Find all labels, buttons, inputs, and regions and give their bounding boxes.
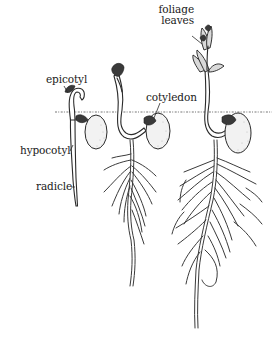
lateral-roots-3 (172, 158, 262, 286)
label-cotyledon: cotyledon (146, 92, 197, 103)
germination-illustration (0, 0, 280, 342)
germination-diagram: foliage leaves epicotyl cotyledon hypoco… (0, 0, 280, 342)
label-foliage-leaves: foliage leaves (158, 4, 194, 26)
stem-2-tip (112, 63, 124, 76)
seed-1-attachment (76, 115, 88, 123)
radicle-shape (70, 118, 77, 206)
label-radicle: radicle (36, 181, 72, 192)
foliage-leaves (193, 25, 224, 72)
seedling-3 (172, 25, 262, 328)
label-epicotyl: epicotyl (46, 74, 87, 85)
main-root-2 (128, 140, 132, 286)
label-hypocotyl: hypocotyl (20, 145, 71, 156)
label-foliage-line2: leaves (158, 15, 194, 26)
